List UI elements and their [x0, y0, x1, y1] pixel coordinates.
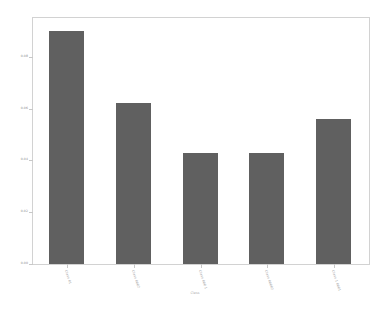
y-tick-label: 0.06: [21, 107, 28, 110]
y-tick-label: 0.08: [21, 55, 28, 58]
y-tick-mark: [29, 109, 33, 110]
bar-chart-figure: 0.00 0.02 0.04 0.06 0.08 Class 01: [0, 0, 390, 319]
x-tick-label: Class 01: [63, 270, 70, 285]
x-axis-title: Class: [0, 292, 390, 295]
x-tick-label: Class 00002: [263, 270, 272, 291]
y-tick-mark: [29, 57, 33, 58]
x-tick-label: Class 000 1: [197, 270, 206, 290]
y-tick-mark: [29, 212, 33, 213]
bar-3: [249, 153, 284, 264]
y-tick-label: 0.00: [21, 262, 28, 265]
bar-2: [183, 153, 218, 264]
x-tick-mark: [67, 264, 68, 268]
y-tick-label: 0.04: [21, 159, 28, 162]
y-tick-mark: [29, 160, 33, 161]
x-tick-label: Class 0002: [130, 270, 139, 289]
bar-1: [116, 103, 151, 264]
bar-4: [316, 119, 351, 264]
y-tick-label: 0.02: [21, 211, 28, 214]
x-tick-mark: [334, 264, 335, 268]
plot-area: 0.00 0.02 0.04 0.06 0.08 Class 01: [32, 17, 370, 265]
bar-0: [49, 31, 84, 264]
x-tick-mark: [201, 264, 202, 268]
x-tick-mark: [267, 264, 268, 268]
y-tick-mark: [29, 264, 33, 265]
x-tick-mark: [134, 264, 135, 268]
x-tick-label: Class 1 0001: [330, 270, 340, 292]
